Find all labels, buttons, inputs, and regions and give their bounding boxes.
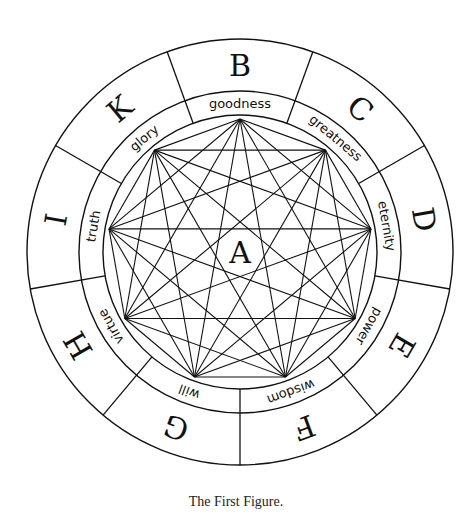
attribute-truth: truth (83, 209, 103, 243)
attribute-goodness: goodness (209, 96, 271, 111)
letter-k: K (100, 88, 140, 130)
chord-line (125, 319, 195, 377)
sector-divider (328, 357, 377, 415)
sector-divider (103, 357, 152, 415)
sector-divider (56, 146, 122, 184)
chord-line (285, 319, 355, 377)
attribute-will: will (176, 381, 201, 402)
attribute-virtue: virtue (95, 306, 127, 346)
chord-line (155, 150, 371, 229)
chord-line (109, 229, 285, 377)
letter-e: E (381, 327, 422, 363)
sector-divider (30, 276, 105, 289)
chord-line (109, 150, 325, 229)
letter-c: C (340, 88, 380, 130)
sector-divider (287, 52, 313, 123)
letter-i: I (38, 211, 75, 229)
circle-figure: BCDEFGHIK goodnessgreatnesseternitypower… (0, 0, 472, 490)
letter-h: H (56, 325, 99, 365)
chord-line (195, 229, 371, 377)
attribute-power: power (352, 305, 385, 348)
first-figure-diagram: BCDEFGHIK goodnessgreatnesseternitypower… (0, 0, 472, 490)
center-letter-a: A (228, 235, 251, 270)
letter-f: F (288, 408, 320, 448)
chord-line (155, 119, 240, 150)
attribute-wisdom: wisdom (265, 376, 317, 407)
sector-divider (167, 52, 193, 123)
letter-b: B (229, 48, 251, 83)
figure-caption: The First Figure. (0, 494, 472, 510)
letter-d: D (405, 205, 444, 235)
sector-divider (375, 276, 450, 289)
sector-divider (359, 146, 425, 184)
letter-g: G (159, 407, 193, 448)
